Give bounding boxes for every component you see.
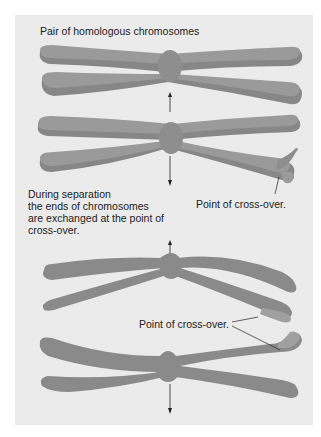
explanation-line-1: During separation <box>28 188 111 201</box>
crossover-label-bottom: Point of cross-over. <box>139 318 229 331</box>
separation-arrow-up-1 <box>168 92 172 112</box>
separation-arrow-down-2 <box>168 384 172 414</box>
explanation-line-2: the ends of chromosomes <box>28 200 149 213</box>
crossover-label-top: Point of cross-over. <box>196 198 286 211</box>
separated-chromosome-top <box>43 253 296 322</box>
explanation-line-4: cross-over. <box>28 224 79 237</box>
separated-chromosome-bottom <box>40 326 302 398</box>
separation-arrow-up-2 <box>168 240 172 254</box>
separation-arrow-down-1 <box>168 156 172 186</box>
diagram-title: Pair of homologous chromosomes <box>40 25 199 38</box>
explanation-line-3: are exchanged at the point of <box>28 212 164 225</box>
